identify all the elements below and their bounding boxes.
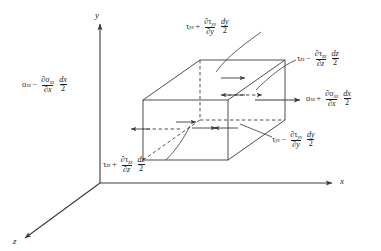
figure-canvas: τyx + ∂τyx ∂y dy 2 τzx − ∂τzx ∂z dz 2 xyxy=(0,0,381,251)
label-sigma-xx-plus: σxx + ∂σxx ∂x dx 2 xyxy=(306,90,353,108)
frac-dx-2: dx 2 xyxy=(342,90,353,108)
cube-front-face xyxy=(143,100,228,160)
axis-label-x: x xyxy=(340,176,344,186)
frac-dx-2: dx 2 xyxy=(58,76,69,94)
axis-z xyxy=(25,183,100,238)
leader-tau-yx-minus xyxy=(240,124,272,137)
label-tau-zx-minus: τzx − ∂τzx ∂z dz 2 xyxy=(297,50,341,68)
label-sigma-xx-minus: σxx − ∂σxx ∂x dx 2 xyxy=(22,76,69,94)
leader-tau-yx-plus xyxy=(216,32,261,72)
frac-dz-2: dz 2 xyxy=(136,156,146,174)
axis-label-z: z xyxy=(13,236,17,246)
cube-depth-edges xyxy=(143,60,285,160)
axis-label-y: y xyxy=(95,10,99,20)
frac-partial: ∂τyx ∂y xyxy=(289,131,304,149)
label-tau-zx-plus: τzx + ∂τzx ∂z dz 2 xyxy=(103,156,147,174)
label-tau-yx-minus: τyx − ∂τyx ∂y dy 2 xyxy=(272,131,317,149)
frac-dz-2: dz 2 xyxy=(330,50,340,68)
leader-tau-zx-minus xyxy=(256,60,296,90)
frac-partial: ∂τzx ∂z xyxy=(119,156,134,174)
label-tau-yx-plus: τyx + ∂τyx ∂y dy 2 xyxy=(186,18,231,36)
frac-partial: ∂σxx ∂x xyxy=(324,90,340,108)
leader-tau-zx-plus xyxy=(166,126,190,160)
frac-partial: ∂τyx ∂y xyxy=(203,18,218,36)
frac-dy-2: dy 2 xyxy=(219,18,230,36)
stress-element-drawing xyxy=(0,0,381,251)
frac-dy-2: dy 2 xyxy=(305,131,316,149)
frac-partial: ∂τzx ∂z xyxy=(313,50,328,68)
frac-partial: ∂σxx ∂x xyxy=(40,76,56,94)
